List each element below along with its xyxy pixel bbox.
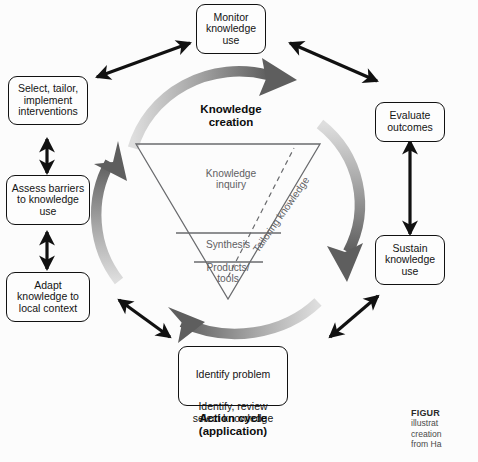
node-adapt-knowledge-to-local-context[interactable]: Adapt knowledge to local context xyxy=(6,272,90,322)
node-assess-barriers-to-knowledge-use[interactable]: Assess barriers to knowledge use xyxy=(6,175,90,225)
node-evaluate-outcomes[interactable]: Evaluate outcomes xyxy=(375,102,445,142)
triangle-section-knowledge-inquiry: Knowledge inquiry xyxy=(176,168,286,191)
arrow-select-to-monitor xyxy=(97,43,190,77)
arrow-identify-to-adapt xyxy=(119,300,170,337)
arrow-sustain-to-identify xyxy=(330,296,378,337)
knowledge-creation-cycle-arcs xyxy=(94,58,363,343)
knowledge-creation-label: Knowledge creation xyxy=(166,103,296,129)
node-sustain-knowledge-use[interactable]: Sustain knowledge use xyxy=(375,235,445,285)
node-monitor-knowledge-use[interactable]: Monitor knowledge use xyxy=(196,4,266,54)
triangle-section-products-tools: Products/ tools xyxy=(191,262,265,285)
arrow-monitor-to-evaluate xyxy=(290,43,377,81)
figure-caption-line-3: creation xyxy=(411,429,478,439)
node-select-tailor-implement-interventions[interactable]: Select, tailor, implement interventions xyxy=(8,76,88,125)
identify-problem-label: Identify problem xyxy=(179,359,287,388)
figure-caption-line-4: from Ha xyxy=(411,439,478,449)
cycle-arc-bottom xyxy=(168,302,318,343)
figure-canvas: Monitor knowledge use Evaluate outcomes … xyxy=(0,0,478,462)
figure-caption-line-1: FIGUR xyxy=(411,408,478,418)
figure-caption-line-2: illustrat xyxy=(411,418,478,428)
cycle-arc-left xyxy=(94,141,127,281)
figure-caption: FIGUR illustrat creation from Ha xyxy=(411,408,478,450)
cycle-arc-right xyxy=(320,124,363,282)
node-identify-problem-and-knowledge[interactable]: Identify problem Identify, review select… xyxy=(178,346,288,406)
action-cycle-label: Action cycle (application) xyxy=(163,412,303,438)
